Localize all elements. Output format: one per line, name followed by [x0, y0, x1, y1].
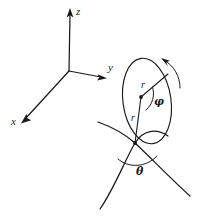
rotation-arrow-head [161, 58, 170, 67]
axis-label-x: x [11, 116, 16, 127]
phi-angle-arc [146, 87, 154, 110]
curve-left-to-right [98, 122, 190, 196]
angle-label-theta: θ [136, 166, 143, 177]
rotation-ring [117, 55, 177, 147]
axis-y [69, 71, 107, 81]
figure-canvas: z y x r r φ θ [0, 0, 198, 218]
ring-ellipse [117, 55, 177, 147]
diagram-svg [0, 0, 198, 218]
rotation-direction-arrow [161, 58, 180, 88]
angle-label-phi: φ [154, 96, 164, 107]
axis-x-line [26, 71, 69, 118]
coordinate-axes [21, 8, 107, 124]
crossing-curves [98, 122, 190, 209]
axis-label-y: y [108, 62, 113, 73]
axis-y-line [69, 71, 101, 77]
axis-x-arrowhead [21, 114, 31, 124]
axis-z [67, 8, 74, 71]
axis-y-arrowhead [97, 74, 107, 80]
radius-upper-line [141, 74, 168, 97]
axis-x [21, 71, 69, 124]
radius-label-lower: r [131, 113, 135, 123]
axis-label-z: z [76, 6, 80, 17]
axis-z-line [69, 14, 70, 71]
radius-label-upper: r [141, 80, 145, 90]
intersection-node-dot [133, 141, 137, 145]
